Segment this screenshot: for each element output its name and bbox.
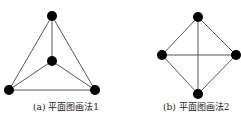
edge <box>52 16 95 90</box>
caption-a: (a) 平面图画法1 <box>33 100 99 113</box>
edge <box>9 16 52 90</box>
node-center <box>47 56 57 66</box>
edge <box>162 17 198 55</box>
node-bottom-right <box>90 85 100 95</box>
edge <box>52 61 95 90</box>
caption-b: (b) 平面图画法2 <box>163 100 229 113</box>
figure-b-planar-drawing-2 <box>157 12 241 99</box>
edge <box>162 55 198 94</box>
node-left <box>157 50 167 60</box>
node-bottom <box>193 89 203 99</box>
figure-a-planar-drawing-1 <box>4 11 100 95</box>
node-top <box>47 11 57 21</box>
edge <box>198 17 236 55</box>
node-top <box>193 12 203 22</box>
node-right <box>231 50 241 60</box>
node-bottom-left <box>4 85 14 95</box>
edge <box>9 61 52 90</box>
edge <box>198 55 236 94</box>
